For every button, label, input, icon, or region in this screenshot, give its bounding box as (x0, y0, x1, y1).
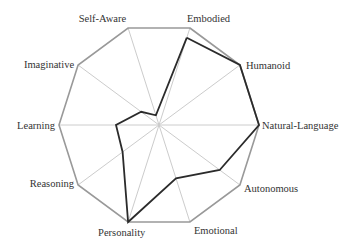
axis-spoke (159, 125, 240, 185)
axis-label-personality: Personality (98, 227, 146, 238)
axis-label-emotional: Emotional (194, 225, 238, 236)
axis-spoke (78, 65, 159, 125)
axis-label-learning: Learning (17, 120, 56, 131)
axis-label-self-aware: Self-Aware (79, 13, 127, 24)
axis-label-natural-language: Natural-Language (262, 120, 339, 131)
data-series-line (116, 38, 259, 222)
axis-spoke (159, 65, 240, 125)
axis-label-embodied: Embodied (187, 13, 231, 24)
axis-label-autonomous: Autonomous (244, 183, 298, 194)
axis-spoke (128, 28, 159, 125)
axis-label-humanoid: Humanoid (246, 60, 291, 71)
axis-label-imaginative: Imaginative (24, 59, 74, 70)
axis-spoke (159, 125, 190, 222)
radar-chart: EmbodiedHumanoidNatural-LanguageAutonomo… (0, 0, 354, 249)
axis-label-reasoning: Reasoning (30, 178, 75, 189)
